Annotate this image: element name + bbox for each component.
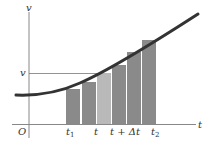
bar-5 xyxy=(127,52,141,124)
origin-label: O xyxy=(18,126,26,137)
tick-label-t1: t1 xyxy=(66,126,75,139)
tick-label-t2: t2 xyxy=(151,126,160,139)
bar-6 xyxy=(142,40,156,124)
bar-1 xyxy=(66,89,80,124)
bar-3 xyxy=(97,73,111,124)
y-axis-label: v xyxy=(26,2,32,13)
tick-label-t: t xyxy=(94,126,99,137)
x-axis-label: t xyxy=(198,119,203,130)
velocity-riemann-diagram: v t O v t1 t t + Δt t2 xyxy=(0,0,212,145)
v-level-label: v xyxy=(20,67,26,78)
tick-label-t-plus-dt: t + Δt xyxy=(110,126,141,137)
bar-4 xyxy=(112,65,126,124)
bar-2 xyxy=(82,82,96,124)
